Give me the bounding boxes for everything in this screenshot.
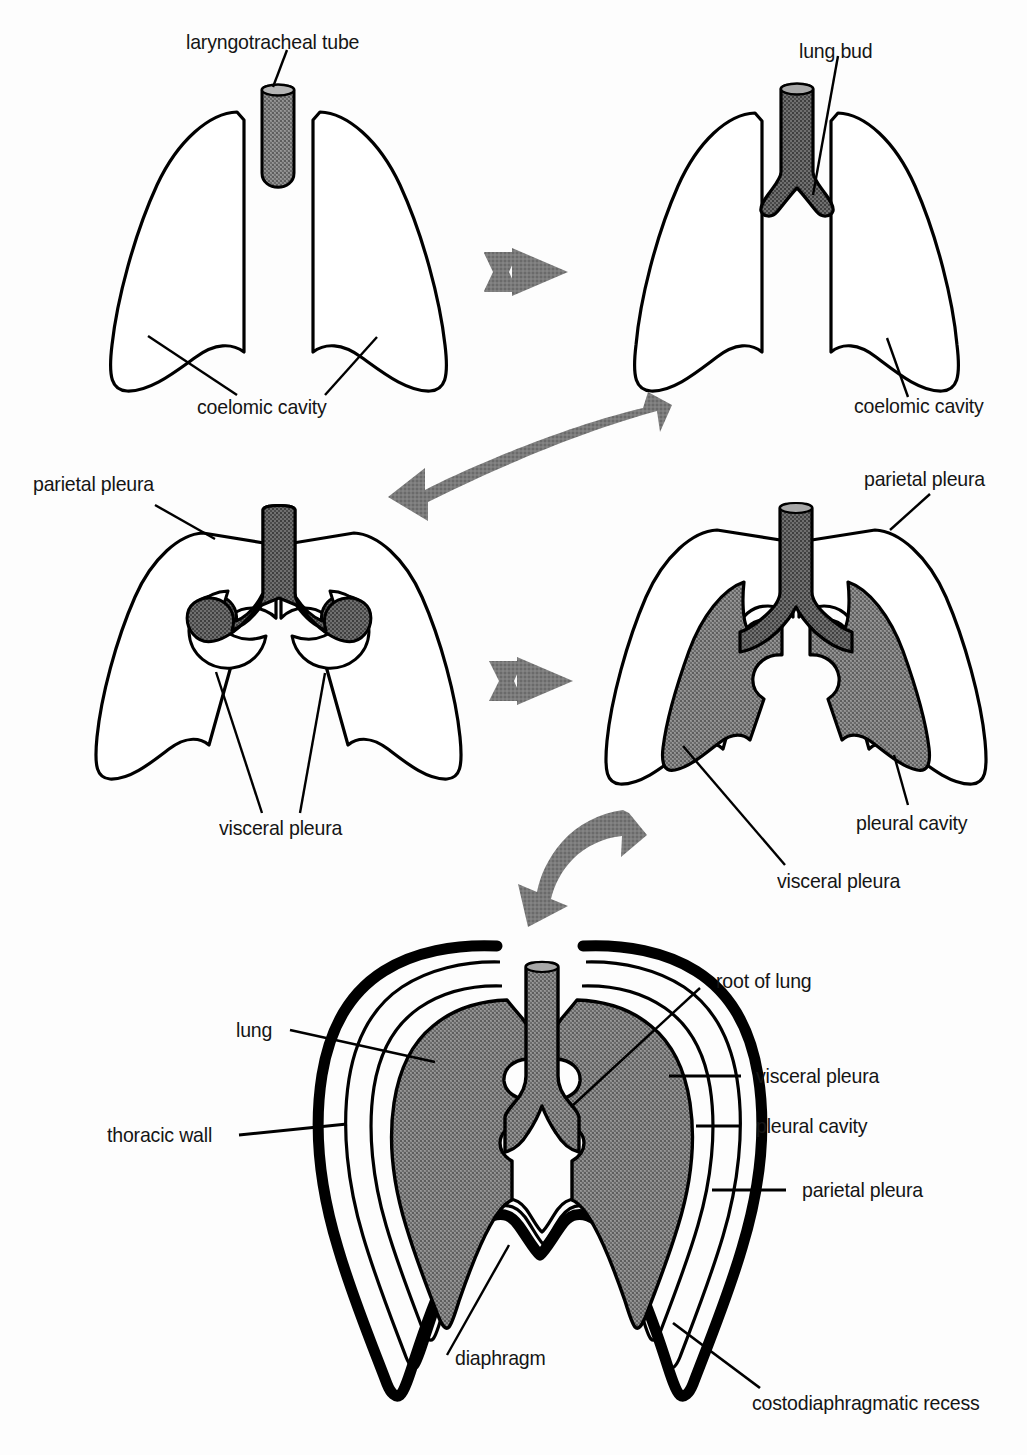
- label-parietal-pleura-mid-left: parietal pleura: [33, 473, 154, 494]
- arrow-panel1-to-panel2: [484, 248, 568, 296]
- leader-visceral-pleura-right-3: [300, 673, 325, 813]
- trachea-top-ellipse-4: [780, 503, 812, 513]
- panel-3-stage-3: [96, 505, 461, 813]
- panel-1-stage-1: [111, 50, 447, 395]
- panel-4-stage-4: [606, 494, 986, 865]
- leader-visceral-pleura-4: [683, 746, 785, 865]
- panel-2-stage-2: [635, 56, 959, 397]
- label-root-of-lung: root of lung: [716, 970, 811, 991]
- label-pleural-cavity-mid-right: pleural cavity: [856, 812, 967, 833]
- label-laryngotracheal-tube: laryngotracheal tube: [186, 31, 359, 52]
- label-costodiaphragmatic-recess: costodiaphragmatic recess: [752, 1392, 980, 1413]
- label-coelomic-cavity-right: coelomic cavity: [854, 395, 984, 416]
- diagram-canvas: [0, 0, 1027, 1455]
- leader-parietal-pleura-4: [890, 494, 930, 530]
- label-visceral-pleura-mid-right: visceral pleura: [777, 870, 900, 891]
- trachea-top-ellipse-bottom: [526, 962, 558, 972]
- label-lung: lung: [236, 1019, 272, 1040]
- leader-laryngotracheal-tube: [273, 50, 287, 87]
- label-visceral-pleura-mid-left: visceral pleura: [219, 817, 342, 838]
- panel-5-stage-5: [239, 946, 786, 1396]
- lung-bud-shape: [761, 85, 833, 217]
- label-diaphragm: diaphragm: [455, 1347, 546, 1368]
- label-pleural-cavity-bottom: pleural cavity: [756, 1115, 867, 1136]
- arrow-panel4-to-panel5: [518, 810, 647, 927]
- label-parietal-pleura-mid-right: parietal pleura: [864, 468, 985, 489]
- laryngotracheal-tube-top-ellipse: [262, 85, 294, 96]
- arrow-panel2-to-panel3: [388, 392, 672, 521]
- label-parietal-pleura-bottom: parietal pleura: [802, 1179, 923, 1200]
- label-lung-bud: lung bud: [799, 40, 872, 61]
- laryngotracheal-tube-shape: [262, 86, 294, 188]
- lung-left-bottom: [392, 1000, 537, 1328]
- lung-right-bottom: [547, 1000, 692, 1328]
- leader-thoracic-wall: [239, 1124, 347, 1135]
- coelomic-cavity-right-outline: [313, 112, 446, 391]
- label-visceral-pleura-bottom: visceral pleura: [756, 1065, 879, 1086]
- coelomic-cavity-right-outline-2: [831, 113, 958, 391]
- coelomic-cavity-left-outline: [111, 112, 244, 391]
- leader-parietal-pleura-3: [155, 505, 215, 539]
- anatomy-figure-pleura-development: laryngotracheal tube coelomic cavity lun…: [0, 0, 1027, 1455]
- label-coelomic-cavity-left: coelomic cavity: [197, 396, 327, 417]
- arrow-panel3-to-panel4: [489, 657, 573, 705]
- leader-visceral-pleura-left-3: [216, 672, 262, 813]
- coelomic-cavity-left-outline-2: [635, 113, 762, 391]
- label-thoracic-wall: thoracic wall: [107, 1124, 212, 1145]
- lung-bud-top-ellipse: [781, 84, 813, 95]
